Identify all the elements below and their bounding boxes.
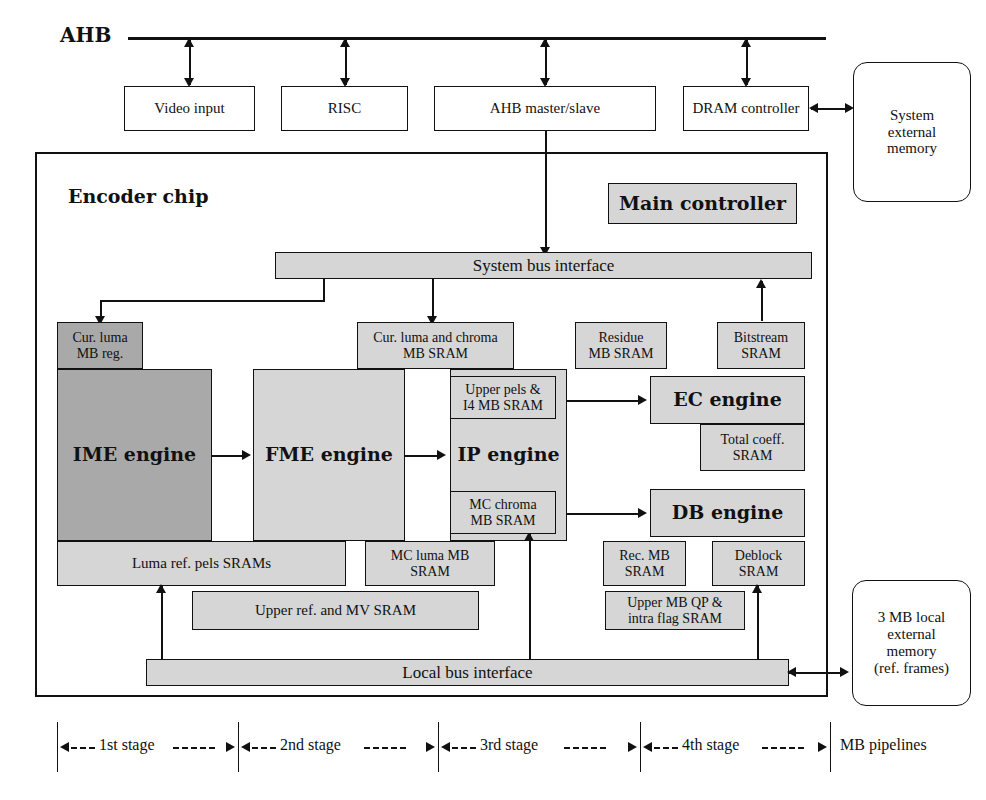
- stage3-arrow-right: [628, 742, 637, 752]
- pipeline-caption: MB pipelines: [840, 736, 927, 754]
- stage1-arrow-right: [226, 742, 235, 752]
- stage2-arrow-right: [426, 742, 435, 752]
- stage2-dash-left: [252, 747, 276, 749]
- localbus-to-lumaref-arrow: [156, 584, 166, 593]
- stage4-dash-left: [654, 747, 678, 749]
- memory-mc-chroma-mb-sram[interactable]: MC chroma MB SRAM: [450, 491, 556, 534]
- stage-divider-2: [438, 722, 439, 772]
- fme-to-ip-arrow: [437, 450, 446, 460]
- memory-total-coeff-sram[interactable]: Total coeff. SRAM: [700, 424, 805, 471]
- stage-divider-3: [640, 722, 641, 772]
- ahb-block-dram-controller[interactable]: DRAM controller: [683, 86, 809, 131]
- stage-label-4: 4th stage: [682, 736, 739, 754]
- stage3-dash-right: [564, 747, 606, 749]
- local-external-memory[interactable]: 3 MB local external memory (ref. frames): [852, 580, 971, 706]
- stage1-dash-left: [71, 747, 95, 749]
- stage2-arrow-left: [241, 742, 250, 752]
- stage-label-1: 1st stage: [99, 736, 155, 754]
- stage3-dash-left: [452, 747, 476, 749]
- engine-db[interactable]: DB engine: [650, 489, 805, 537]
- ahb-arrow-up-master: [540, 38, 550, 47]
- localbus-to-extmem-arrow-right: [840, 667, 849, 677]
- memory-deblock-sram[interactable]: Deblock SRAM: [712, 541, 805, 586]
- memory-upper-pels-i4-mb-sram[interactable]: Upper pels & I4 MB SRAM: [450, 376, 556, 419]
- diagram-canvas: AHB Video input RISC AHB master/slave DR…: [0, 0, 986, 800]
- ime-to-fme-line: [212, 455, 244, 457]
- memory-cur-luma-chroma-mb-sram[interactable]: Cur. luma and chroma MB SRAM: [357, 322, 514, 369]
- memory-luma-ref-pels-srams[interactable]: Luma ref. pels SRAMs: [57, 541, 346, 586]
- stage-label-3: 3rd stage: [480, 736, 538, 754]
- sysbus-elbow-h: [100, 300, 325, 302]
- ahb-bus-label: AHB: [60, 24, 111, 47]
- main-controller-block[interactable]: Main controller: [608, 183, 797, 224]
- fme-to-ip-line: [405, 455, 438, 457]
- ahb-arrow-up-dram: [741, 38, 751, 47]
- stage4-arrow-right: [818, 742, 827, 752]
- ip-to-db-line: [567, 513, 639, 515]
- bitstream-to-sysbus-arrow: [756, 279, 766, 288]
- ahb-arrow-up-video: [184, 38, 194, 47]
- memory-cur-luma-mb-reg[interactable]: Cur. luma MB reg.: [57, 322, 143, 369]
- ime-to-fme-arrow: [242, 450, 251, 460]
- stage3-arrow-left: [441, 742, 450, 752]
- engine-ime[interactable]: IME engine: [57, 369, 212, 541]
- ip-to-db-arrow: [638, 508, 647, 518]
- sysbus-to-curchroma-line: [432, 279, 434, 321]
- localbus-to-deblock-arrow: [752, 584, 762, 593]
- ahb-block-video-input[interactable]: Video input: [124, 86, 255, 131]
- ahb-arrow-up-risc: [340, 38, 350, 47]
- ip-to-ec-arrow: [638, 395, 647, 405]
- system-external-memory[interactable]: System external memory: [853, 62, 971, 202]
- memory-bitstream-sram[interactable]: Bitstream SRAM: [717, 322, 805, 369]
- ip-to-ec-line: [567, 400, 639, 402]
- stage1-dash-right: [173, 747, 215, 749]
- localbus-to-extmem-line: [789, 672, 846, 674]
- engine-ec[interactable]: EC engine: [650, 376, 805, 424]
- encoder-chip-label: Encoder chip: [68, 186, 208, 208]
- stage-divider-0: [57, 722, 58, 772]
- stage4-arrow-left: [643, 742, 652, 752]
- localbus-to-deblock-line: [757, 586, 759, 659]
- dram-arrow-left: [809, 103, 818, 113]
- memory-residue-mb-sram[interactable]: Residue MB SRAM: [575, 322, 667, 369]
- engine-fme[interactable]: FME engine: [253, 369, 405, 541]
- stage4-dash-right: [762, 747, 804, 749]
- localbus-to-extmem-arrow-left: [787, 667, 796, 677]
- ahb-bus-line: [128, 37, 826, 40]
- ahb-block-risc[interactable]: RISC: [281, 86, 408, 131]
- stage-label-2: 2nd stage: [280, 736, 341, 754]
- memory-upper-ref-mv-sram[interactable]: Upper ref. and MV SRAM: [192, 591, 479, 630]
- stage1-arrow-left: [60, 742, 69, 752]
- memory-upper-mb-qp-intra-flag-sram[interactable]: Upper MB QP & intra flag SRAM: [605, 591, 745, 630]
- system-bus-interface-block[interactable]: System bus interface: [275, 252, 812, 279]
- stage-divider-1: [238, 722, 239, 772]
- memory-rec-mb-sram[interactable]: Rec. MB SRAM: [603, 541, 686, 586]
- localbus-to-lumaref-line: [161, 586, 163, 659]
- ahb-block-ahb-master-slave[interactable]: AHB master/slave: [434, 86, 656, 131]
- stage-divider-4: [830, 722, 831, 772]
- sysbus-elbow-v1: [323, 279, 325, 301]
- local-bus-interface-block[interactable]: Local bus interface: [146, 659, 789, 686]
- memory-mc-luma-mb-sram[interactable]: MC luma MB SRAM: [365, 541, 495, 586]
- stage2-dash-right: [364, 747, 406, 749]
- localbus-to-mcchroma-line: [529, 534, 531, 659]
